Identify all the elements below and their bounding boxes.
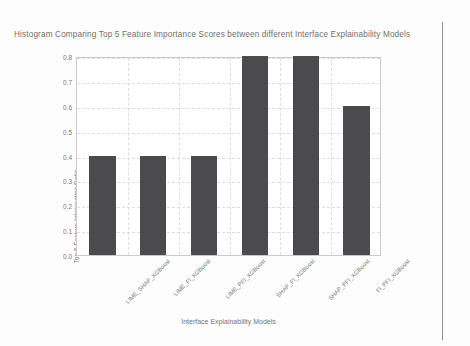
y-tick-label: 0.5 — [50, 128, 72, 135]
bars-layer — [77, 58, 380, 255]
x-axis-ticks: LIME_SHAP_XGBoostLIME_FI_XGBoostLIME_PFI… — [76, 258, 381, 316]
bar — [343, 106, 369, 255]
y-tick-label: 0.1 — [50, 228, 72, 235]
x-tick-label: FI_PFI_XGBoost — [375, 258, 411, 294]
y-tick-label: 0.4 — [50, 153, 72, 160]
chart-title: Histogram Comparing Top 5 Feature Import… — [14, 30, 444, 39]
x-tick-label: SHAP_FI_XGBoost — [275, 258, 316, 299]
y-axis-ticks: Top 5 Feature Intersection Ratio 0.00.10… — [48, 57, 72, 256]
x-tick-label: LIME_FI_XGBoost — [173, 258, 212, 297]
y-tick-label: 0.6 — [50, 103, 72, 110]
page-margin-rule — [442, 22, 443, 340]
bar — [140, 156, 166, 256]
y-tick-label: 0.0 — [50, 253, 72, 260]
y-tick-label: 0.3 — [50, 178, 72, 185]
bar — [89, 156, 115, 256]
scanned-page-background: Histogram Comparing Top 5 Feature Import… — [0, 0, 470, 346]
bar — [242, 56, 268, 255]
y-tick-label: 0.7 — [50, 78, 72, 85]
bar — [191, 156, 217, 256]
x-tick-label: SHAP_PFI_XGBoost — [327, 258, 370, 301]
y-tick-label: 0.2 — [50, 203, 72, 210]
x-tick-label: LIME_SHAP_XGBoost — [125, 258, 172, 305]
bar — [293, 56, 319, 255]
x-axis-label: Interface Explainability Models — [76, 318, 381, 325]
y-tick-label: 0.8 — [50, 54, 72, 61]
plot-area — [76, 57, 381, 256]
x-tick-label: LIME_PFI_XGBoost — [225, 258, 267, 300]
